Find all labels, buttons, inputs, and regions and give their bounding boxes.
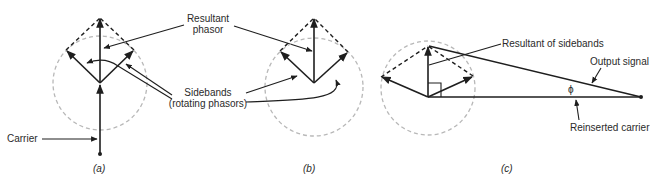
lower-sideband-phasor [100,51,133,83]
phase-angle-symbol: ϕ [568,84,574,95]
resultant-leader-a [104,25,184,48]
parallelogram-edge [66,18,100,50]
sidebands-leader-a2 [126,64,172,95]
upper-sideband-phasor [281,52,314,83]
lower-sideband-phasor [428,77,472,97]
sidebands-label-2: (rotating phasors) [169,98,247,109]
carrier-origin-dot [98,152,102,156]
panel-c-label: (c) [501,163,513,174]
sidebands-leader-b2 [246,80,337,102]
rotation-arrow [87,60,118,66]
upper-sideband-phasor [67,51,100,83]
resultant-of-sidebands-label: Resultant of sidebands [502,38,604,49]
parallelogram-edge [100,18,134,50]
phasor-diagram: Carrier (a) Resultant phasor Sidebands (… [0,0,651,181]
sidebands-leader-b1 [246,76,297,93]
panel-a: Carrier (a) [7,18,172,174]
output-signal-phasor [429,46,641,97]
resultant-of-sidebands-leader [429,44,501,65]
resultant-phasor-label-2: phasor [193,24,224,35]
lower-sideband-phasor [314,53,347,83]
parallelogram-edge [381,46,428,77]
upper-sideband-phasor [382,77,428,97]
resultant-phasor-label-1: Resultant [187,13,229,24]
panel-b-label: (b) [303,163,315,174]
reinserted-carrier-leader [576,100,579,120]
carrier-label: Carrier [7,133,38,144]
parallelogram-edge [314,18,348,52]
carrier-tip-dot [639,95,643,99]
output-signal-leader [592,68,601,83]
reinserted-carrier-label: Reinserted carrier [570,122,650,133]
panel-b: (b) [246,18,363,174]
shared-annotations: Resultant phasor Sidebands (rotating pha… [104,13,312,109]
resultant-leader-b [234,26,312,51]
sidebands-label-1: Sidebands [184,87,231,98]
output-signal-label: Output signal [590,56,649,67]
panel-a-label: (a) [93,163,105,174]
panel-c: Resultant of sidebands Output signal ϕ R… [381,38,650,174]
